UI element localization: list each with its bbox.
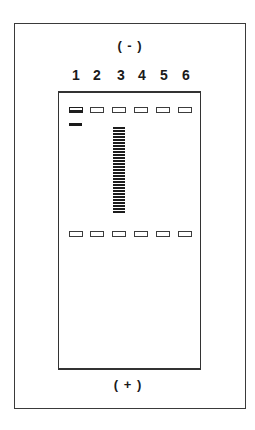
lane-label-4: 4 [134,67,150,83]
cathode-label: ( - ) [100,38,160,53]
well-lane-5-middle [156,231,170,237]
well-lane-2-middle [90,231,104,237]
well-lane-1-top [69,107,83,113]
well-lane-2-top [90,107,104,113]
lane-label-1: 1 [68,67,84,83]
lane-label-3: 3 [113,67,129,83]
lane-label-6: 6 [178,67,194,83]
well-lane-3-top [112,107,126,113]
anode-label: ( + ) [98,377,158,392]
well-lane-3-middle [112,231,126,237]
lane-label-5: 5 [156,67,172,83]
lane-1-dna-band [69,123,82,126]
well-lane-5-top [156,107,170,113]
lane-3-dna-ladder [113,127,125,213]
well-lane-6-top [178,107,192,113]
well-lane-6-middle [178,231,192,237]
well-lane-1-middle [69,231,83,237]
well-lane-4-middle [134,231,148,237]
well-lane-4-top [134,107,148,113]
lane-label-2: 2 [89,67,105,83]
